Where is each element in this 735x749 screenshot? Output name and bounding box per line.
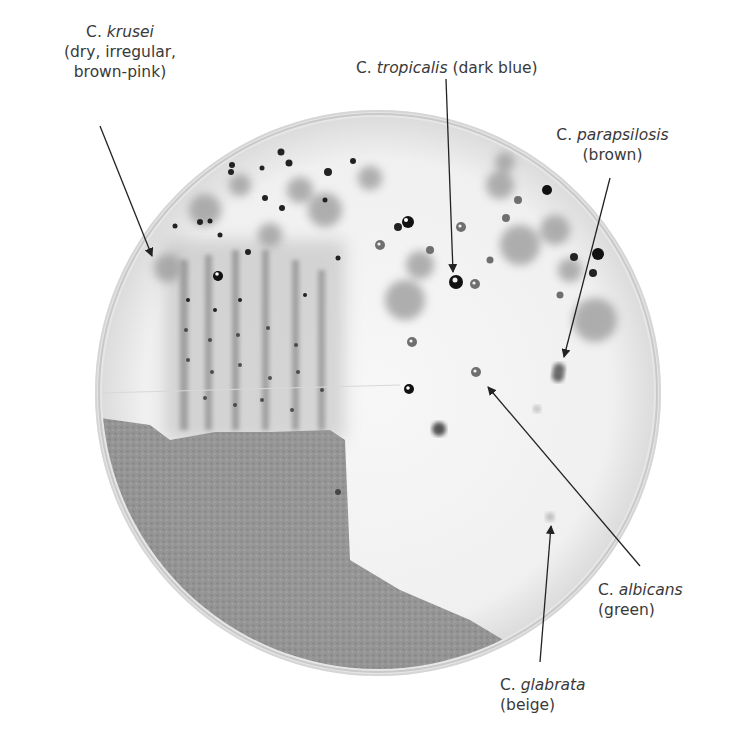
label-krusei: C. krusei (dry, irregular, brown-pink) xyxy=(40,22,200,82)
description-line: (beige) xyxy=(500,695,586,715)
arrow-krusei xyxy=(100,126,152,256)
species-text: glabrata xyxy=(521,676,586,694)
species-text: parapsilosis xyxy=(577,126,669,144)
parapsilosis-colony xyxy=(552,363,565,382)
label-glabrata: C. glabrata (beige) xyxy=(500,675,586,715)
description-line: (green) xyxy=(598,600,683,620)
genus-text: C. xyxy=(500,676,516,694)
plate-illustration xyxy=(0,0,735,749)
label-tropicalis: C. tropicalis (dark blue) xyxy=(356,58,538,78)
label-parapsilosis: C. parapsilosis (brown) xyxy=(540,125,685,165)
genus-text: C. xyxy=(598,581,614,599)
description-line: (brown) xyxy=(540,145,685,165)
genus-text: C. xyxy=(356,59,372,77)
albicans-like-colony xyxy=(432,422,446,436)
glabrata-colony xyxy=(546,513,555,522)
description-line: (dry, irregular, xyxy=(40,42,200,62)
species-text: tropicalis xyxy=(377,59,448,77)
species-text: krusei xyxy=(107,23,154,41)
description-line: brown-pink) xyxy=(40,62,200,82)
label-albicans: C. albicans (green) xyxy=(598,580,683,620)
description-text: (dark blue) xyxy=(452,59,537,77)
candida-agar-plate-figure: C. krusei (dry, irregular, brown-pink) C… xyxy=(0,0,735,749)
genus-text: C. xyxy=(556,126,572,144)
genus-text: C. xyxy=(86,23,102,41)
species-text: albicans xyxy=(619,581,683,599)
